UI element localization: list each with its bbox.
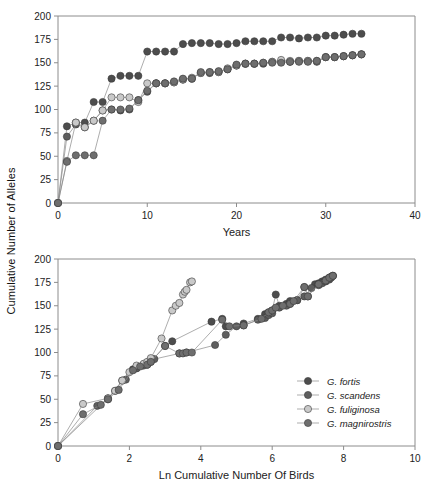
data-point (104, 396, 111, 403)
data-point (115, 386, 122, 393)
y-tick-label: 200 (34, 11, 51, 22)
y-tick-label: 50 (40, 151, 52, 162)
data-point (272, 304, 279, 311)
data-point (349, 30, 356, 37)
data-point (295, 35, 302, 42)
y-tick-label: 25 (40, 417, 52, 428)
y-tick-label: 100 (34, 104, 51, 115)
x-tick-label: 30 (320, 210, 332, 221)
data-point (108, 106, 115, 113)
data-point (206, 69, 213, 76)
data-point (349, 52, 356, 59)
data-point (63, 133, 70, 140)
data-point (153, 80, 160, 87)
data-point (224, 66, 231, 73)
data-point (290, 297, 297, 304)
data-point (147, 358, 154, 365)
data-point (81, 124, 88, 131)
data-point (158, 335, 165, 342)
chart-canvas: 0255075100125150175200010203040Years0255… (0, 0, 433, 482)
data-point (329, 272, 336, 279)
data-point (322, 32, 329, 39)
y-tick-label: 75 (40, 370, 52, 381)
x-tick-label: 2 (127, 453, 133, 464)
y-tick-label: 175 (34, 34, 51, 45)
x-tick-label: 10 (142, 210, 154, 221)
x-tick-label: 0 (55, 210, 61, 221)
data-point (304, 34, 311, 41)
data-point (90, 152, 97, 159)
legend-label[interactable]: G. fortis (327, 376, 361, 387)
data-point (144, 87, 151, 94)
y-tick-label: 0 (45, 198, 51, 209)
data-point (117, 72, 124, 79)
data-point (251, 38, 258, 45)
legend-marker (304, 391, 311, 398)
data-point (340, 31, 347, 38)
y-tick-label: 0 (45, 441, 51, 452)
data-point (251, 60, 258, 67)
data-point (233, 40, 240, 47)
data-point (331, 32, 338, 39)
data-point (188, 75, 195, 82)
data-point (169, 338, 176, 345)
y-tick-label: 125 (34, 81, 51, 92)
data-point (179, 40, 186, 47)
data-point (279, 302, 286, 309)
data-point (242, 60, 249, 67)
data-point (90, 98, 97, 105)
data-point (308, 284, 315, 291)
data-point (179, 75, 186, 82)
data-point (215, 40, 222, 47)
data-point (260, 38, 267, 45)
data-point (208, 318, 215, 325)
data-point (278, 59, 285, 66)
data-point (81, 152, 88, 159)
data-point (260, 59, 267, 66)
legend-label[interactable]: G. scandens (327, 390, 381, 401)
data-point (188, 278, 195, 285)
data-point (129, 367, 136, 374)
data-point (295, 58, 302, 65)
x-tick-label: 8 (341, 453, 347, 464)
data-point (188, 349, 195, 356)
legend-label[interactable]: G. fuliginosa (327, 404, 380, 415)
panel-bottom: 02550751001251501752000246810Ln Cumulati… (34, 254, 421, 482)
data-point (63, 123, 70, 130)
legend-marker (304, 405, 311, 412)
x-tick-label: 40 (409, 210, 421, 221)
data-point (137, 363, 144, 370)
data-point (117, 94, 124, 101)
data-point (135, 97, 142, 104)
data-point (90, 117, 97, 124)
data-point (117, 106, 124, 113)
panel-top: 0255075100125150175200010203040Years (34, 11, 421, 239)
data-point (240, 322, 247, 329)
x-tick-label: 4 (198, 453, 204, 464)
data-point (126, 72, 133, 79)
data-point (269, 38, 276, 45)
figure-container: Cumulative Number of Alleles 02550751001… (0, 0, 433, 482)
data-point (54, 199, 61, 206)
data-point (286, 58, 293, 65)
shared-y-axis-label: Cumulative Number of Alleles (0, 0, 22, 482)
data-point (331, 54, 338, 61)
data-point (340, 53, 347, 60)
data-point (188, 40, 195, 47)
data-point (278, 34, 285, 41)
data-point (99, 117, 106, 124)
data-point (63, 158, 70, 165)
x-tick-label: 6 (269, 453, 275, 464)
x-tick-label: 0 (55, 453, 61, 464)
data-point (224, 40, 231, 47)
data-point (135, 72, 142, 79)
x-tick-label: 20 (231, 210, 243, 221)
data-point (304, 293, 311, 300)
data-point (301, 283, 308, 290)
y-tick-label: 25 (40, 174, 52, 185)
legend-label[interactable]: G. magnirostris (327, 418, 392, 429)
data-point (72, 119, 79, 126)
data-point (119, 377, 126, 384)
series-line-g--fuliginosa (58, 281, 192, 446)
x-tick-label: 10 (409, 453, 421, 464)
